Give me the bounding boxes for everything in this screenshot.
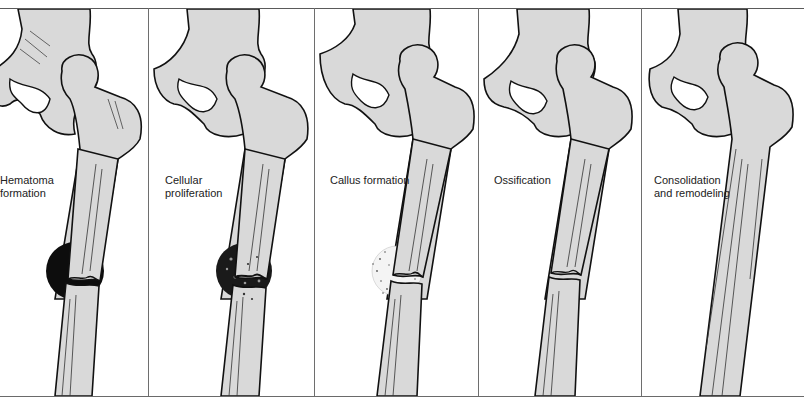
stage-label-hematoma: Hematoma formation	[0, 174, 54, 200]
stage-label-ossification: Ossification	[494, 174, 551, 187]
femur-cellular-illustration	[149, 9, 314, 396]
frame-bottom-border	[0, 396, 804, 397]
femur-remodeling-illustration	[642, 9, 804, 396]
fracture-healing-figure: Hematoma formation Cellular proliferatio…	[0, 0, 804, 404]
panel-hematoma-formation: Hematoma formation	[0, 9, 148, 396]
stage-label-remodeling: Consolidation and remodeling	[654, 174, 730, 200]
femur-callus-illustration	[315, 9, 478, 396]
panel-callus-formation: Callus formation	[315, 9, 478, 396]
stage-label-callus: Callus formation	[330, 174, 409, 187]
panel-consolidation-remodeling: Consolidation and remodeling	[642, 9, 804, 396]
panel-cellular-proliferation: Cellular proliferation	[149, 9, 314, 396]
panel-ossification: Ossification	[479, 9, 641, 396]
femur-ossification-illustration	[479, 9, 641, 396]
stage-label-cellular: Cellular proliferation	[165, 174, 222, 200]
femur-hematoma-illustration	[0, 9, 148, 396]
